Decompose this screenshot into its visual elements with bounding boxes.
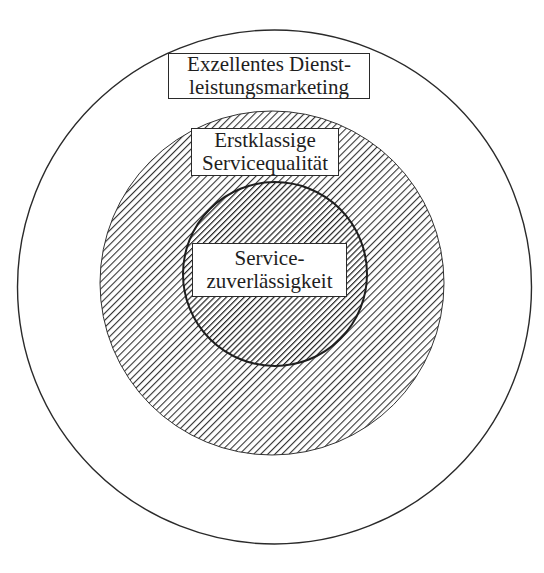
outer-layer-label: Exzellentes Dienst- leistungsmarketing (168, 53, 370, 99)
outer-label-line-2: leistungsmarketing (189, 76, 349, 99)
middle-label-line-2: Servicequalität (202, 152, 328, 175)
middle-layer-label: Erstklassige Servicequalität (191, 128, 339, 176)
outer-label-line-1: Exzellentes Dienst- (187, 53, 351, 76)
inner-layer-label: Service- zuverlässigkeit (192, 243, 347, 297)
inner-label-line-2: zuverlässigkeit (207, 270, 333, 293)
inner-label-line-1: Service- (235, 247, 305, 270)
middle-label-line-1: Erstklassige (214, 129, 315, 152)
